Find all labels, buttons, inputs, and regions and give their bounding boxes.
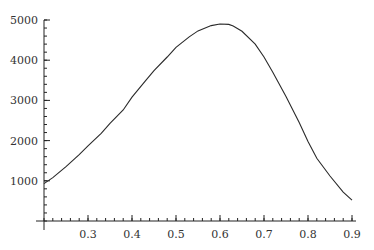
x-tick-label: 0.3 xyxy=(79,228,97,241)
x-tick-label: 0.9 xyxy=(343,228,361,241)
line-chart: 10002000300040005000 0.30.40.50.60.70.80… xyxy=(0,0,374,250)
y-tick-label: 4000 xyxy=(10,54,38,67)
y-axis: 10002000300040005000 xyxy=(10,14,50,230)
x-axis: 0.30.40.50.60.70.80.9 xyxy=(36,215,361,241)
x-major-ticks: 0.30.40.50.60.70.80.9 xyxy=(79,215,361,241)
y-tick-label: 2000 xyxy=(10,135,38,148)
data-curve xyxy=(44,24,352,200)
x-tick-label: 0.4 xyxy=(123,228,141,241)
x-tick-label: 0.7 xyxy=(255,228,273,241)
x-tick-label: 0.5 xyxy=(167,228,185,241)
x-tick-label: 0.8 xyxy=(299,228,317,241)
x-tick-label: 0.6 xyxy=(211,228,229,241)
y-tick-label: 3000 xyxy=(10,94,38,107)
y-tick-label: 1000 xyxy=(10,175,38,188)
y-tick-label: 5000 xyxy=(10,14,38,27)
